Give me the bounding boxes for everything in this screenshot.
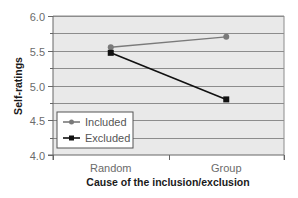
- y-tick-label: 5.5: [30, 46, 45, 58]
- data-point-square: [223, 96, 229, 102]
- y-axis-ticks: 4.04.55.05.56.0: [30, 11, 53, 162]
- data-point-circle: [223, 34, 229, 40]
- legend-label: Excluded: [85, 132, 130, 144]
- data-point-circle: [108, 44, 114, 50]
- x-tick-label: Random: [90, 162, 132, 174]
- x-axis-title: Cause of the inclusion/exclusion: [86, 176, 249, 188]
- x-tick-label: Group: [211, 162, 242, 174]
- x-axis-ticks: RandomGroup: [54, 155, 285, 174]
- legend-circle-icon: [69, 120, 74, 125]
- y-axis-title: Self-ratings: [12, 57, 24, 115]
- y-tick-label: 6.0: [30, 11, 45, 23]
- y-tick-label: 4.5: [30, 115, 45, 127]
- y-tick-label: 4.0: [30, 150, 45, 162]
- legend-square-icon: [69, 136, 74, 141]
- data-point-square: [108, 50, 114, 56]
- y-tick-label: 5.0: [30, 81, 45, 93]
- legend-label: Included: [85, 116, 127, 128]
- legend: IncludedExcluded: [57, 112, 133, 148]
- line-chart: 4.04.55.05.56.0 RandomGroup IncludedExcl…: [0, 0, 298, 198]
